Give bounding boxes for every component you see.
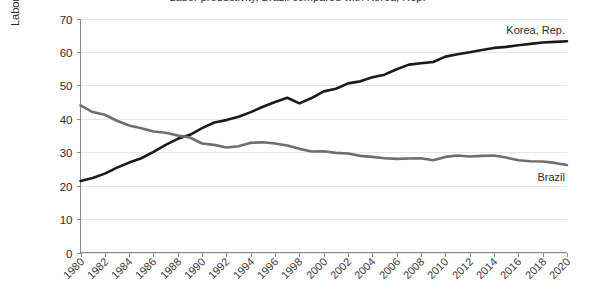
x-tick-label: 1994 [231,255,257,281]
x-tick-label: 1986 [133,255,159,281]
x-tick-label: 2004 [352,255,378,281]
y-axis-ticks: 010203040506070 [60,14,81,260]
y-tick-label: 40 [60,114,73,126]
series-line [81,41,568,181]
series-line [81,105,568,165]
y-tick-label: 60 [60,47,73,59]
x-tick-label: 2006 [377,255,403,281]
y-tick-label: 30 [60,147,73,159]
x-tick-label: 2010 [425,255,451,281]
chart-container: Labor productivity, Brazil compared with… [0,0,595,293]
y-tick-label: 10 [60,214,73,226]
x-tick-label: 2012 [450,255,476,281]
x-tick-label: 1988 [158,255,184,281]
x-tick-label: 2018 [523,255,549,281]
y-tick-label: 50 [60,80,73,92]
x-tick-label: 2016 [498,255,524,281]
x-tick-label: 2002 [328,255,354,281]
x-tick-label: 1984 [109,255,135,281]
x-tick-label: 1990 [182,255,208,281]
series-label: Korea, Rep. [506,24,565,36]
y-tick-label: 20 [60,181,73,193]
data-series [81,41,568,181]
x-tick-label: 2014 [474,255,500,281]
x-tick-label: 1996 [255,255,281,281]
y-tick-label: 70 [60,14,73,26]
x-axis-ticks: 1980198219841986198819901992199419961998… [61,253,573,282]
chart-plot: 010203040506070 198019821984198619881990… [0,0,595,293]
gridlines [81,20,568,254]
series-label: Brazil [537,171,565,183]
x-tick-label: 2008 [401,255,427,281]
y-tick-label: 0 [66,248,72,260]
x-tick-label: 2020 [547,255,573,281]
x-tick-label: 1982 [85,255,111,281]
x-tick-label: 1992 [206,255,232,281]
x-tick-label: 1980 [61,255,87,281]
x-tick-label: 2000 [304,255,330,281]
x-tick-label: 1998 [279,255,305,281]
